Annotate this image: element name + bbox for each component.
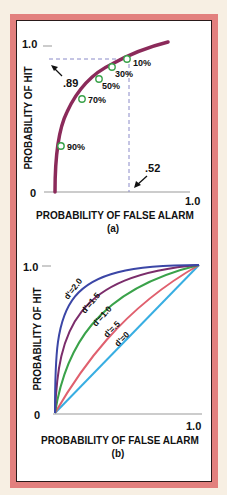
panel-label-b: (b) [112,448,125,459]
panel-label-a: (a) [107,223,119,234]
point-90 [58,143,64,149]
y-tick-label-top-a: 1.0 [22,38,37,50]
y-tick-label-zero-a: 0 [30,187,36,199]
point-label-90: 90% [67,142,85,152]
annotation-89: .89 [63,77,78,89]
chart-b: 1.0 0 1.0 PROBABILITY OF HIT PROBABILITY… [23,261,202,459]
y-tick-label-zero-b: 0 [34,409,40,421]
x-tick-label-end-b: 1.0 [186,420,201,432]
x-axis-label-b: PROBABILITY OF FALSE ALARM [41,435,199,446]
point-label-10: 10% [133,58,151,68]
point-10 [124,56,130,62]
y-axis-label-a: PROBABILITY OF HIT [23,66,34,169]
point-label-30: 30% [115,69,133,79]
roc-figure: 1.0 0 1.0 PROBABILITY OF HIT PROBABILITY… [0,0,227,495]
y-axis-label-b: PROBABILITY OF HIT [32,287,43,390]
point-70 [79,96,85,102]
x-axis-label-a: PROBABILITY OF FALSE ALARM [36,210,194,221]
annotation-52: .52 [145,162,160,174]
chart-a: 1.0 0 1.0 PROBABILITY OF HIT PROBABILITY… [22,38,200,234]
point-label-50: 50% [102,81,120,91]
point-label-70: 70% [88,95,106,105]
y-tick-label-top-b: 1.0 [23,261,38,273]
x-tick-label-end-a: 1.0 [185,195,200,207]
